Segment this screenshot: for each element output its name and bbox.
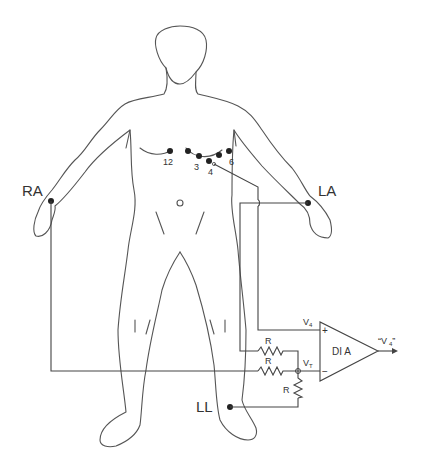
output-close: ” — [392, 336, 395, 346]
body-left-outline — [34, 68, 180, 447]
electrode-label-12: 12 — [163, 157, 173, 167]
resistor-la — [258, 347, 298, 371]
minus-sign: − — [322, 366, 328, 377]
wire-v4 — [214, 164, 320, 330]
electrode-v3a — [185, 148, 191, 154]
label-ra: RA — [22, 182, 43, 199]
wire-ll — [230, 398, 298, 407]
ecg-lead-diagram: 12 3 4 6 RA LA LL R R R — [0, 0, 421, 472]
electrode-v1v2 — [167, 148, 173, 154]
body-right-outline — [180, 72, 331, 440]
amplifier-label: DI A — [332, 346, 351, 357]
electrode-v4 — [206, 158, 212, 164]
chest-electrodes: 12 3 4 6 — [163, 148, 234, 177]
human-body-outline — [34, 26, 331, 447]
electrode-label-6: 6 — [229, 157, 234, 167]
output-open: “V — [378, 336, 387, 346]
left-knee-mark-1 — [210, 320, 214, 334]
output-arrow-icon — [392, 348, 398, 354]
electrode-v5 — [216, 152, 222, 158]
lead-wires — [51, 164, 320, 407]
resistor-ra-label: R — [265, 356, 272, 366]
label-ll: LL — [196, 398, 213, 415]
minus-input-sub: T — [309, 363, 313, 369]
output-label: “V4” — [378, 336, 395, 347]
wire-la — [240, 203, 308, 351]
navel — [177, 200, 183, 206]
resistor-ll-label: R — [283, 385, 290, 395]
left-hip-line — [196, 212, 204, 234]
electrode-label-3: 3 — [194, 162, 199, 172]
electrode-label-4: 4 — [208, 167, 213, 177]
resistor-la-label: R — [265, 336, 272, 346]
head-outline — [155, 26, 206, 84]
electrode-v3 — [196, 153, 202, 159]
plus-input-sub: 4 — [309, 322, 313, 328]
resistor-ll — [294, 371, 302, 398]
plus-sign: + — [322, 325, 328, 336]
wire-ra — [51, 201, 258, 371]
right-hip-line — [156, 212, 164, 234]
plus-input-label: V4 — [303, 317, 313, 328]
right-knee-mark-2 — [146, 320, 150, 334]
electrode-v6 — [226, 148, 232, 154]
minus-input-label: VT — [303, 358, 313, 369]
label-la: LA — [318, 182, 336, 199]
